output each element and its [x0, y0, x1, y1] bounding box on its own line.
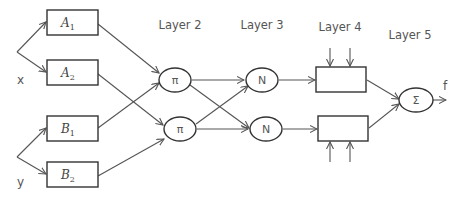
input-x-label: x	[17, 73, 24, 87]
node-pi-2-symbol: π	[177, 123, 184, 136]
node-sigma-symbol: Σ	[413, 94, 420, 107]
edge-y-b1	[17, 128, 46, 157]
edge-b1-p1	[98, 83, 159, 128]
output-f-label: f	[443, 79, 448, 93]
edge-r1-sum	[367, 80, 399, 99]
edge-b2-p2	[98, 139, 164, 176]
layer-4-label: Layer 4	[318, 20, 361, 34]
edge-x-a2	[17, 52, 46, 72]
node-layer4-rule-2	[318, 116, 368, 141]
edge-r2-sum	[369, 104, 399, 128]
edge-y-b2	[17, 157, 46, 174]
node-layer4-rule-1	[316, 67, 366, 92]
edge-p2-n1	[196, 86, 248, 124]
edge-x-a1	[17, 22, 46, 52]
node-pi-1-symbol: π	[172, 74, 179, 87]
layer-5-label: Layer 5	[388, 28, 431, 42]
anfis-diagram: Layer 2 Layer 3 Layer 4 Layer 5 x y	[0, 0, 464, 202]
layer-2-label: Layer 2	[158, 18, 201, 32]
node-n-2-symbol: N	[262, 123, 270, 136]
layer-3-label: Layer 3	[240, 18, 283, 32]
edge-a1-p1	[98, 24, 159, 73]
node-n-1-symbol: N	[258, 74, 266, 87]
edge-a2-p2	[98, 74, 163, 125]
input-y-label: y	[17, 175, 24, 189]
